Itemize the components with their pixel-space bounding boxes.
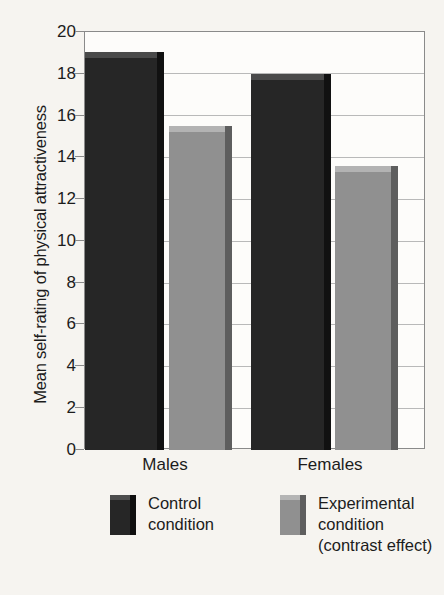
legend-label-control-line2: condition — [148, 514, 214, 535]
y-tick-mark-0 — [75, 449, 84, 450]
x-tick-label-males: Males — [110, 455, 220, 475]
y-tick-label-14: 14 — [40, 148, 76, 165]
legend-label-experimental-line1: Experimental — [318, 493, 432, 514]
legend-label-experimental-line3: (contrast effect) — [318, 535, 432, 556]
y-tick-label-12: 12 — [40, 190, 76, 207]
bar-side-bevel — [391, 166, 398, 450]
y-tick-mark-8 — [75, 282, 84, 283]
y-tick-label-4: 4 — [40, 357, 76, 374]
legend-label-experimental: Experimental condition (contrast effect) — [318, 493, 432, 556]
plot-area — [84, 31, 425, 449]
legend-swatch-control — [110, 495, 136, 535]
y-tick-label-8: 8 — [40, 274, 76, 291]
bar-face — [335, 166, 398, 450]
y-tick-mark-18 — [75, 73, 84, 74]
bar-top-bevel — [85, 52, 164, 58]
y-tick-mark-10 — [75, 240, 84, 241]
bar-top-bevel — [251, 74, 331, 80]
y-tick-mark-4 — [75, 365, 84, 366]
y-tick-mark-16 — [75, 115, 84, 116]
bar-top-bevel — [335, 166, 398, 172]
y-tick-label-6: 6 — [40, 315, 76, 332]
y-tick-mark-12 — [75, 198, 84, 199]
y-tick-mark-6 — [75, 323, 84, 324]
y-tick-mark-20 — [75, 31, 84, 32]
bar-side-bevel — [225, 126, 232, 450]
y-tick-label-18: 18 — [40, 65, 76, 82]
swatch-side-bevel — [130, 495, 136, 535]
swatch-side-bevel — [300, 495, 306, 535]
y-tick-label-20: 20 — [40, 23, 76, 40]
bar-females-experimental — [335, 166, 398, 450]
bar-males-experimental — [169, 126, 232, 450]
bar-chart-figure: Mean self-rating of physical attractiven… — [0, 0, 444, 595]
y-tick-label-2: 2 — [40, 399, 76, 416]
legend-swatch-experimental — [280, 495, 306, 535]
legend-label-control-line1: Control — [148, 493, 214, 514]
bar-top-bevel — [169, 126, 232, 132]
bar-males-control — [85, 52, 164, 450]
y-tick-mark-2 — [75, 407, 84, 408]
legend-label-experimental-line2: condition — [318, 514, 432, 535]
bar-face — [251, 74, 331, 450]
bar-side-bevel — [157, 52, 164, 450]
legend-label-control: Control condition — [148, 493, 214, 535]
bar-side-bevel — [324, 74, 331, 450]
y-tick-label-0: 0 — [40, 441, 76, 458]
bar-face — [169, 126, 232, 450]
bar-face — [85, 52, 164, 450]
x-tick-label-females: Females — [275, 455, 385, 475]
bar-females-control — [251, 74, 331, 450]
y-tick-label-16: 16 — [40, 107, 76, 124]
y-tick-mark-14 — [75, 156, 84, 157]
y-tick-label-10: 10 — [40, 232, 76, 249]
